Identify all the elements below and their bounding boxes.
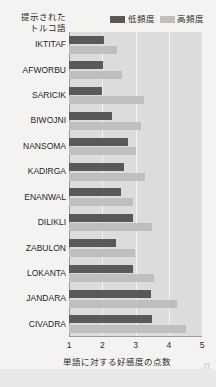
bar-low-frequency xyxy=(69,265,133,273)
bar-high-frequency xyxy=(69,173,145,181)
y-axis-title: 提示された トルコ語 xyxy=(0,12,66,33)
bar-low-frequency xyxy=(69,290,151,298)
bar-high-frequency xyxy=(69,223,152,231)
y-category-label: ENANWAL xyxy=(0,193,66,202)
gridline xyxy=(202,32,203,337)
bar-high-frequency xyxy=(69,122,141,130)
bar-low-frequency xyxy=(69,61,103,69)
bar-low-frequency xyxy=(69,315,152,323)
legend-item-low-frequency: 低頻度 xyxy=(110,15,155,24)
x-tick-label: 3 xyxy=(128,340,144,350)
bar-high-frequency xyxy=(69,46,117,54)
bar-low-frequency xyxy=(69,87,102,95)
y-category-label: KADIRGA xyxy=(0,167,66,176)
legend-item-high-frequency: 高頻度 xyxy=(160,15,205,24)
legend-label-low: 低頻度 xyxy=(128,15,155,24)
bar-low-frequency xyxy=(69,138,128,146)
bar-high-frequency xyxy=(69,198,133,206)
chart-root: 提示された トルコ語 低頻度 高頻度 12345IKTITAFAFWORBUSA… xyxy=(0,0,216,387)
y-category-label: JANDARA xyxy=(0,294,66,303)
x-tick-label: 5 xyxy=(194,340,210,350)
y-category-label: ZABULON xyxy=(0,244,66,253)
bar-low-frequency xyxy=(69,188,121,196)
bar-high-frequency xyxy=(69,274,154,282)
bar-low-frequency xyxy=(69,214,133,222)
bar-high-frequency xyxy=(69,96,144,104)
y-category-label: AFWORBU xyxy=(0,66,66,75)
bar-high-frequency xyxy=(69,300,177,308)
x-axis-label: 単語に対する好感度の点数 xyxy=(0,355,216,367)
gridline xyxy=(169,32,170,337)
y-category-label: IKTITAF xyxy=(0,40,66,49)
x-axis-label-text: 単語に対する好感度の点数 xyxy=(63,357,171,367)
y-category-label: CIVADRA xyxy=(0,320,66,329)
bar-high-frequency xyxy=(69,249,135,257)
y-category-label: BIWOJNI xyxy=(0,116,66,125)
bottom-strip xyxy=(0,369,216,387)
bar-low-frequency xyxy=(69,112,112,120)
y-category-label: NANSOMA xyxy=(0,142,66,151)
y-category-label: DILIKLI xyxy=(0,218,66,227)
chart-legend: 低頻度 高頻度 xyxy=(110,15,204,24)
bar-high-frequency xyxy=(69,325,186,333)
y-category-label: SARICIK xyxy=(0,91,66,100)
x-tick-label: 1 xyxy=(61,340,77,350)
bar-low-frequency xyxy=(69,163,124,171)
legend-label-high: 高頻度 xyxy=(177,15,204,24)
bar-low-frequency xyxy=(69,239,116,247)
y-axis-title-line2: トルコ語 xyxy=(0,23,66,34)
y-category-label: LOKANTA xyxy=(0,269,66,278)
x-tick-label: 2 xyxy=(94,340,110,350)
bar-high-frequency xyxy=(69,71,122,79)
x-tick-label: 4 xyxy=(161,340,177,350)
legend-swatch-icon-low xyxy=(110,16,125,23)
bar-high-frequency xyxy=(69,147,136,155)
watermark: n xyxy=(204,357,211,373)
legend-swatch-icon-high xyxy=(160,16,175,23)
bar-low-frequency xyxy=(69,36,104,44)
y-axis-title-line1: 提示された xyxy=(0,12,66,23)
